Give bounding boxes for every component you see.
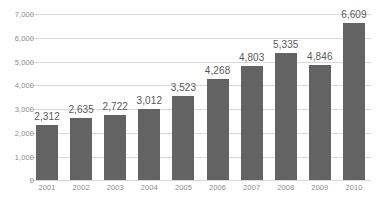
bar-value-label: 3,523 bbox=[171, 82, 197, 93]
bar-value-label: 3,012 bbox=[137, 95, 163, 106]
bar-group: 2,6352002 bbox=[64, 0, 98, 212]
x-axis-tick-label: 2006 bbox=[209, 183, 226, 192]
bar[interactable] bbox=[207, 79, 229, 180]
bar-value-label: 2,722 bbox=[102, 101, 128, 112]
bar-value-label: 5,335 bbox=[273, 39, 299, 50]
bar-group: 3,5232005 bbox=[166, 0, 200, 212]
bar[interactable] bbox=[36, 125, 58, 180]
bar-value-label: 4,846 bbox=[307, 51, 333, 62]
bar[interactable] bbox=[172, 96, 194, 180]
bar[interactable] bbox=[309, 65, 331, 180]
bar-value-label: 4,268 bbox=[205, 65, 231, 76]
x-axis-tick-label: 2004 bbox=[141, 183, 158, 192]
bar[interactable] bbox=[104, 115, 126, 180]
bar-group: 2,3122001 bbox=[30, 0, 64, 212]
bar-chart: 7,000 6,000 5,000 4,000 3,000 2,000 1,00… bbox=[0, 0, 379, 212]
bar-value-label: 4,803 bbox=[239, 52, 265, 63]
bar-group: 4,8032007 bbox=[235, 0, 269, 212]
bar[interactable] bbox=[241, 66, 263, 180]
x-axis-tick-label: 2010 bbox=[345, 183, 362, 192]
x-axis-tick-label: 2002 bbox=[73, 183, 90, 192]
bar-group: 4,2682006 bbox=[201, 0, 235, 212]
bar-group: 5,3352008 bbox=[269, 0, 303, 212]
bar-group: 4,8462009 bbox=[303, 0, 337, 212]
x-axis-tick-label: 2008 bbox=[277, 183, 294, 192]
bar-group: 3,0122004 bbox=[132, 0, 166, 212]
x-axis-tick-label: 2003 bbox=[107, 183, 124, 192]
plot-area: 2,31220012,63520022,72220033,01220043,52… bbox=[30, 0, 371, 212]
bar-value-label: 6,609 bbox=[341, 9, 367, 20]
bar[interactable] bbox=[138, 109, 160, 180]
x-axis-tick-label: 2001 bbox=[39, 183, 56, 192]
bar-group: 6,6092010 bbox=[337, 0, 371, 212]
x-axis-tick-label: 2005 bbox=[175, 183, 192, 192]
bar[interactable] bbox=[275, 53, 297, 180]
bar-value-label: 2,635 bbox=[68, 104, 94, 115]
bar[interactable] bbox=[70, 118, 92, 180]
bar-group: 2,7222003 bbox=[98, 0, 132, 212]
x-axis-tick-label: 2009 bbox=[311, 183, 328, 192]
bar[interactable] bbox=[343, 23, 365, 180]
bar-value-label: 2,312 bbox=[34, 111, 60, 122]
x-axis-tick-label: 2007 bbox=[243, 183, 260, 192]
